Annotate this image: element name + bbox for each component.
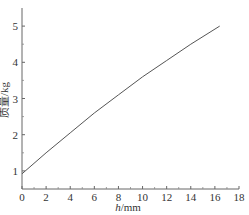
y-tick-label: 5 xyxy=(13,20,19,32)
x-tick-label: 0 xyxy=(19,191,25,203)
x-axis-label: h/mm xyxy=(115,201,141,213)
axes xyxy=(22,8,239,189)
x-tick-label: 2 xyxy=(43,191,49,203)
y-tick-label: 4 xyxy=(13,56,19,68)
x-tick-label: 4 xyxy=(67,191,73,203)
y-tick-label: 3 xyxy=(13,93,19,105)
x-tick-label: 14 xyxy=(185,191,197,203)
line-chart: 02468101214161812345 h/mm 质量/kg xyxy=(0,0,249,215)
y-tick-label: 2 xyxy=(13,129,19,141)
y-axis-label: 质量/kg xyxy=(0,81,10,118)
x-tick-label: 16 xyxy=(209,191,221,203)
x-tick-label: 18 xyxy=(234,191,246,203)
x-tick-label: 12 xyxy=(161,191,172,203)
x-tick-label: 6 xyxy=(92,191,98,203)
data-line xyxy=(22,26,220,174)
ticks: 02468101214161812345 xyxy=(13,20,246,203)
y-tick-label: 1 xyxy=(13,165,19,177)
